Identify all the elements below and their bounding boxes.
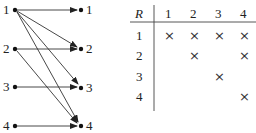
edge-1-4 [17,12,78,122]
table-corner-label: R [134,6,143,21]
right-node-4 [79,124,83,128]
edge-1-3 [17,12,78,84]
left-node-4 [13,124,17,128]
row-header: 1 [136,28,143,43]
column-header: 1 [165,6,172,21]
row-header: 4 [136,89,143,104]
relation-table: R 1 2 3 4 1 2 3 4 × × × × × × × × [130,5,256,111]
table-cell: × [239,89,250,104]
row-header: 2 [136,48,143,63]
table-cell: × [239,28,250,43]
table-cell: × [164,28,175,43]
left-node-3 [13,85,17,89]
relation-figure: 1 2 3 4 1 2 3 4 R 1 2 3 4 1 2 3 4 × × × … [0,0,256,133]
column-header: 3 [215,6,222,21]
table-cell: × [189,48,200,63]
left-node-label: 4 [3,118,10,133]
table-cell: × [189,28,200,43]
table-cell: × [214,69,225,84]
left-node-label: 2 [3,41,10,56]
right-node-3 [79,86,83,90]
right-node-label: 1 [86,2,93,17]
right-node-1 [79,8,83,12]
right-node-2 [79,47,83,51]
right-node-label: 4 [86,118,93,133]
right-node-label: 2 [86,41,93,56]
table-cell: × [214,28,225,43]
left-node-2 [13,47,17,51]
left-node-label: 3 [3,79,10,94]
left-node-label: 1 [3,2,10,17]
column-header: 2 [190,6,197,21]
edges [17,10,78,126]
left-node-1 [13,8,17,12]
left-nodes: 1 2 3 4 [3,2,17,133]
row-header: 3 [136,69,143,84]
right-node-label: 3 [86,80,93,95]
column-header: 4 [240,6,247,21]
right-nodes: 1 2 3 4 [79,2,93,133]
table-cell: × [239,48,250,63]
